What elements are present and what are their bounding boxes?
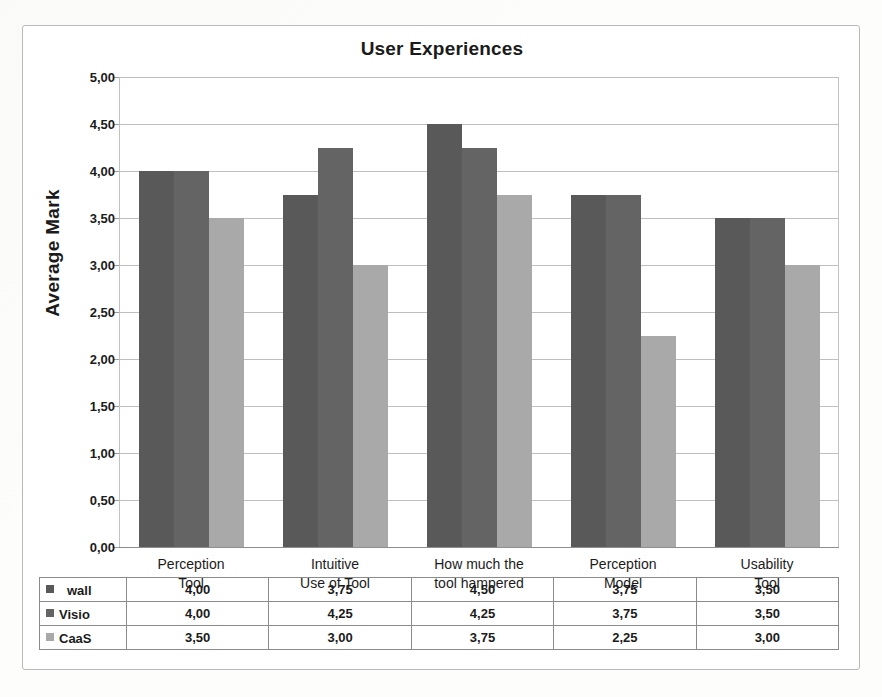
bar-visio-3 — [606, 195, 641, 548]
bar-wall-2 — [427, 124, 462, 547]
bar-caas-3 — [641, 336, 676, 548]
category-label-line: Perception — [548, 555, 698, 574]
bar-wall-3 — [571, 195, 606, 548]
legend-swatch-icon — [46, 633, 54, 641]
table-cell: 3,00 — [269, 626, 411, 650]
table-cell: 4,25 — [269, 602, 411, 626]
y-axis-tick-label: 1,00 — [35, 446, 115, 461]
table-row: Visio4,004,254,253,753,50 — [40, 602, 839, 626]
bar-visio-4 — [750, 218, 785, 547]
table-cell: 3,50 — [127, 626, 269, 650]
table-cell: 3,75 — [411, 626, 553, 650]
bar-wall-4 — [715, 218, 750, 547]
y-axis-tick-label: 0,00 — [35, 540, 115, 555]
bar-caas-2 — [497, 195, 532, 548]
category-label-line: Usability — [692, 555, 842, 574]
table-cell: 3,50 — [696, 578, 838, 602]
table-cell: 3,50 — [696, 602, 838, 626]
table-row: wall4,003,754,503,753,50 — [40, 578, 839, 602]
y-axis-tick-label: 3,00 — [35, 258, 115, 273]
y-axis-tick-label: 0,50 — [35, 493, 115, 508]
y-axis-tick-label: 2,00 — [35, 352, 115, 367]
bar-visio-2 — [462, 148, 497, 548]
gridline — [119, 547, 839, 548]
table-cell: 4,25 — [411, 602, 553, 626]
y-axis-tick-label: 1,50 — [35, 399, 115, 414]
scanned-page: User Experiences Average Mark 0,000,501,… — [0, 0, 882, 697]
bar-group — [139, 77, 244, 547]
legend-swatch-icon — [46, 585, 54, 593]
category-label-line: How much the — [404, 555, 554, 574]
y-axis-title: Average Mark — [42, 153, 64, 353]
legend-cell-visio: Visio — [40, 602, 127, 626]
table-cell: 3,75 — [269, 578, 411, 602]
bar-caas-4 — [785, 265, 820, 547]
table-cell: 2,25 — [554, 626, 696, 650]
table-cell: 4,00 — [127, 578, 269, 602]
table-cell: 4,00 — [127, 602, 269, 626]
bar-caas-0 — [209, 218, 244, 547]
bar-group — [427, 77, 532, 547]
bar-visio-0 — [174, 171, 209, 547]
legend-label: Visio — [59, 607, 90, 622]
legend-cell-wall: wall — [40, 578, 127, 602]
table-cell: 3,75 — [554, 578, 696, 602]
legend-cell-caas: CaaS — [40, 626, 127, 650]
legend-label: CaaS — [59, 631, 92, 646]
chart-frame: User Experiences Average Mark 0,000,501,… — [22, 25, 860, 670]
plot-area: 0,000,501,001,502,002,503,003,504,004,50… — [119, 77, 839, 547]
bar-wall-0 — [139, 171, 174, 547]
legend-label: wall — [59, 583, 92, 598]
y-axis-tick-label: 4,00 — [35, 164, 115, 179]
legend-swatch-icon — [46, 609, 54, 617]
bar-group — [715, 77, 820, 547]
bar-group — [571, 77, 676, 547]
table-cell: 4,50 — [411, 578, 553, 602]
bar-group — [283, 77, 388, 547]
bar-caas-1 — [353, 265, 388, 547]
category-label-line: Perception — [116, 555, 266, 574]
y-axis-tick-label: 2,50 — [35, 305, 115, 320]
bar-wall-1 — [283, 195, 318, 548]
table-row: CaaS3,503,003,752,253,00 — [40, 626, 839, 650]
table-cell: 3,75 — [554, 602, 696, 626]
y-axis-tick-label: 4,50 — [35, 117, 115, 132]
chart-title: User Experiences — [23, 38, 861, 60]
y-axis-tick-label: 3,50 — [35, 211, 115, 226]
bar-visio-1 — [318, 148, 353, 548]
data-table: wall4,003,754,503,753,50Visio4,004,254,2… — [39, 577, 839, 650]
category-label-line: Intuitive — [260, 555, 410, 574]
y-axis-tick-label: 5,00 — [35, 70, 115, 85]
table-cell: 3,00 — [696, 626, 838, 650]
